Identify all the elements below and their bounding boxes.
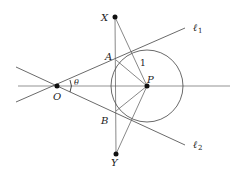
label-l1-sub: 1: [198, 27, 202, 35]
label-theta: θ: [74, 78, 79, 87]
label-p: P: [146, 74, 154, 85]
label-a: A: [104, 51, 112, 62]
label-b: B: [100, 115, 108, 126]
label-l1: ℓ: [193, 22, 197, 33]
segment-bp: [116, 86, 147, 111]
point-o: [55, 84, 60, 89]
segment-xp: [115, 17, 147, 86]
diagram-canvas: X A B Y O P θ 1 ℓ 1 ℓ 2: [0, 0, 241, 175]
segment-yp: [116, 86, 147, 154]
label-l2: ℓ: [193, 139, 197, 150]
label-o: O: [53, 91, 61, 102]
line-l2: [16, 67, 185, 145]
label-radius: 1: [140, 58, 146, 68]
point-x: [113, 15, 118, 20]
segment-xy: [115, 17, 116, 154]
point-y: [114, 152, 119, 157]
label-x: X: [100, 12, 109, 23]
label-l2-sub: 2: [198, 144, 202, 152]
label-y: Y: [111, 157, 119, 168]
line-l1: [16, 28, 185, 102]
